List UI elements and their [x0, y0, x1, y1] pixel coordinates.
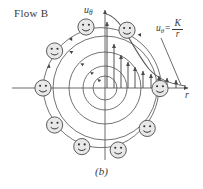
smiley-connector-arc-7 — [149, 94, 158, 120]
smiley-face-icon-8 — [152, 80, 168, 96]
vertical-axis-subscript: θ — [89, 9, 93, 17]
smiley-face-icon-4 — [47, 117, 63, 133]
vertical-axis-label: uθ — [84, 5, 93, 17]
figure-caption: (b) — [95, 166, 108, 177]
smiley-face-icon-6 — [110, 142, 126, 158]
smiley-face-icon-1 — [78, 19, 94, 35]
equation-lhs-subscript: θ — [161, 27, 164, 34]
smiley-face-icon-9 — [119, 22, 135, 38]
flow-label: Flow B — [14, 8, 49, 19]
smiley-faces-group — [35, 19, 168, 158]
horizontal-axis-var: r — [185, 89, 189, 100]
equation-equals-sign: = — [165, 23, 170, 33]
streamline-arrowhead-1 — [98, 79, 102, 82]
smiley-face-icon-2 — [47, 43, 63, 59]
equation-fraction: Kr — [172, 19, 182, 39]
flow-b-figure: Flow B uθ r uθ=Kr (b) — [0, 0, 203, 189]
smiley-face-icon-7 — [139, 120, 155, 136]
equation-denominator: r — [172, 30, 182, 40]
equation-leader-line — [161, 38, 181, 85]
streamline-arrowhead-2 — [90, 72, 94, 75]
streamline-arrowhead-3 — [80, 63, 84, 66]
smiley-face-icon-3 — [35, 80, 51, 96]
smiley-face-icon-5 — [74, 139, 90, 155]
smiley-arrowhead-3 — [138, 33, 142, 37]
horizontal-axis-label: r — [185, 90, 189, 100]
velocity-equation-label: uθ=Kr — [156, 19, 183, 39]
streamline-arrowhead-4 — [69, 51, 73, 54]
